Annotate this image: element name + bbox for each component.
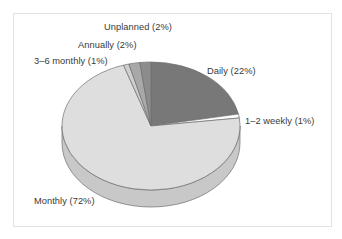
pie-chart-figure: Unplanned (2%) Annually (2%) 3–6 monthly…: [0, 0, 342, 239]
pie-slice-label-annually: Annually (2%): [78, 40, 137, 51]
pie-slice-label-3-6-monthly: 3–6 monthly (1%): [34, 56, 108, 67]
pie-slice-label-monthly: Monthly (72%): [34, 196, 95, 207]
pie-slice-label-1-2-weekly: 1–2 weekly (1%): [245, 116, 314, 127]
pie-slice-label-unplanned: Unplanned (2%): [104, 22, 172, 33]
pie-slice-label-daily: Daily (22%): [207, 66, 256, 77]
